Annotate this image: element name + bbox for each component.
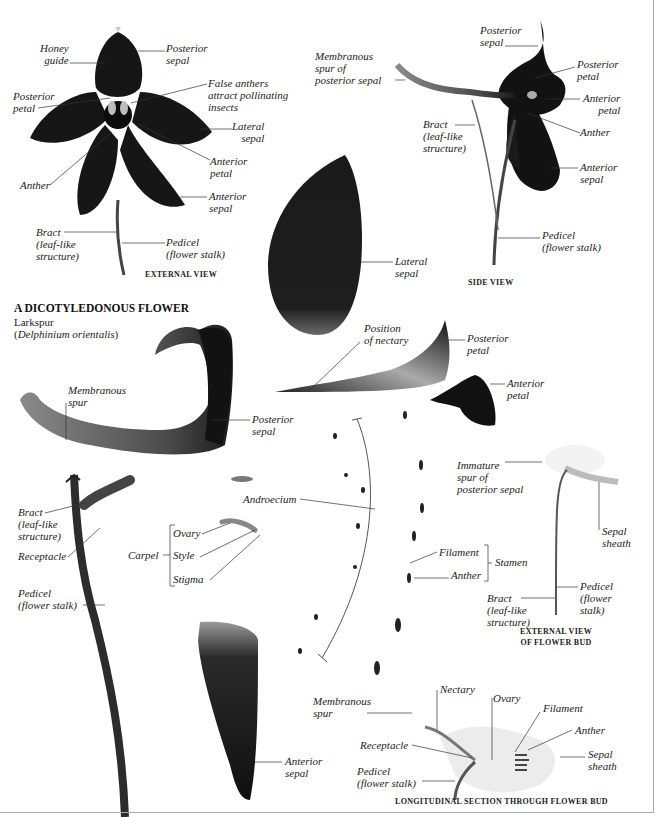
label-bract: Bract (leaf-like structure) [18, 506, 61, 542]
label-ls-membranous-spur: Membranous spur [313, 695, 371, 719]
label-ls-ovary: Ovary [493, 692, 521, 704]
label-position-of-nectary: Position of nectary [364, 322, 408, 346]
caption-side-view: SIDE VIEW [468, 278, 513, 287]
label-ls-filament: Filament [543, 702, 583, 714]
label-stigma: Stigma [173, 573, 204, 585]
label-side-bract: Bract (leaf-like structure) [423, 118, 466, 154]
anterior-sepal-shape [198, 622, 258, 800]
diagram-title: A DICOTYLEDONOUS FLOWER [14, 302, 189, 314]
androecium-stamens [298, 411, 424, 675]
label-side-posterior-sepal: Posterior sepal [480, 24, 522, 48]
label-ext-posterior-petal: Posterior petal [13, 90, 55, 114]
label-side-anterior-petal: Anterior petal [583, 92, 620, 116]
label-side-pedicel: Pedicel (flower stalk) [542, 229, 601, 253]
label-ext-anterior-petal: Anterior petal [210, 155, 247, 179]
label-lateral-sepal: Lateral sepal [395, 255, 427, 279]
label-ls-pedicel: Pedicel (flower stalk) [357, 765, 416, 789]
label-bud-pedicel: Pedicel (flower stalk) [580, 580, 613, 616]
label-ext-anterior-sepal: Anterior sepal [209, 190, 246, 214]
label-style: Style [173, 549, 194, 561]
label-filament: Filament [439, 546, 479, 558]
label-bud-bract: Bract (leaf-like structure) [487, 592, 530, 628]
longitudinal-section-bud [425, 726, 555, 800]
label-honey-guide: Honey guide [40, 42, 69, 66]
label-stamen: Stamen [495, 556, 527, 568]
label-ext-lateral-sepal: Lateral sepal [232, 120, 264, 144]
label-pedicel: Pedicel (flower stalk) [18, 587, 77, 611]
label-side-anterior-sepal: Anterior sepal [580, 161, 617, 185]
label-side-posterior-petal: Posterior petal [577, 58, 619, 82]
label-posterior-petal: Posterior petal [467, 332, 509, 356]
frame-border-bottom [0, 812, 654, 813]
label-androecium: Androecium [243, 493, 296, 505]
frame-border-right [653, 0, 654, 812]
larkspur-diagram-page: A DICOTYLEDONOUS FLOWER Larkspur (Delphi… [0, 0, 663, 817]
caption-external-view: EXTERNAL VIEW [145, 270, 217, 279]
label-ovary: Ovary [173, 527, 201, 539]
common-name: Larkspur [14, 316, 54, 328]
label-immature-spur: Immature spur of posterior sepal [457, 459, 523, 495]
label-ext-anther: Anther [20, 179, 50, 191]
label-anterior-petal: Anterior petal [507, 377, 544, 401]
lateral-sepal-shape [268, 155, 362, 335]
label-ext-pedicel: Pedicel (flower stalk) [166, 236, 225, 260]
label-carpel: Carpel [128, 549, 159, 561]
label-ext-posterior-sepal: Posterior sepal [166, 42, 208, 66]
label-receptacle: Receptacle [18, 550, 66, 562]
label-ls-nectary: Nectary [440, 683, 475, 695]
posterior-sepal-spur-shape [20, 325, 233, 455]
label-ls-sepal-sheath: Sepal sheath [588, 748, 617, 772]
label-side-anther: Anther [580, 126, 610, 138]
label-bud-sepal-sheath: Sepal sheath [602, 525, 631, 549]
label-ls-anther: Anther [575, 724, 605, 736]
label-anther: Anther [451, 569, 481, 581]
label-anterior-sepal: Anterior sepal [285, 755, 322, 779]
species-name: (Delphinium orientalis) [14, 328, 118, 340]
label-posterior-sepal: Posterior sepal [252, 413, 294, 437]
caption-flower-bud: EXTERNAL VIEW OF FLOWER BUD [520, 626, 592, 648]
label-side-membranous-spur: Membranous spur of posterior sepal [315, 50, 381, 86]
caption-longitudinal-section: LONGITUDINAL SECTION THROUGH FLOWER BUD [395, 797, 608, 806]
anterior-petal-shape [430, 375, 496, 426]
label-ext-bract: Bract (leaf-like structure) [36, 226, 79, 262]
label-ls-receptacle: Receptacle [360, 739, 408, 751]
label-false-anthers: False anthers attract pollinating insect… [208, 77, 288, 113]
label-membranous-spur: Membranous spur [68, 384, 126, 408]
